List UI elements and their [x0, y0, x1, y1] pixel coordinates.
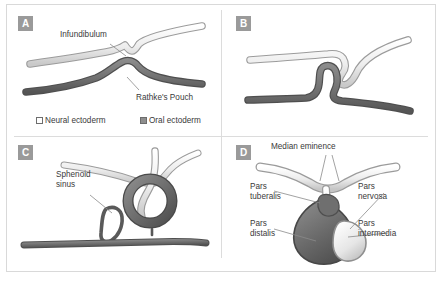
panel-b: B: [222, 4, 436, 137]
label-pars-nervosa-line2: nervosa: [358, 192, 387, 202]
panel-b-illustration: [222, 4, 436, 137]
panel-c-illustration: [6, 137, 222, 272]
panel-c: C: [6, 137, 222, 272]
neural-ectoderm-swatch-icon: [36, 117, 43, 124]
label-rathkes-pouch: Rathke's Pouch: [136, 93, 193, 103]
legend-label-neural-ectoderm: Neural ectoderm: [45, 116, 106, 125]
label-pars-intermedia-line1: Pars: [358, 219, 375, 229]
legend-item-oral-ectoderm: Oral ectoderm: [140, 116, 201, 125]
panel-d-illustration: [222, 137, 436, 272]
label-pars-tuberalis-line1: Pars: [250, 182, 267, 192]
label-pars-distalis-line1: Pars: [250, 219, 267, 229]
label-sphenoid-sinus-line2: sinus: [56, 180, 75, 190]
legend-label-oral-ectoderm: Oral ectoderm: [149, 116, 201, 125]
figure-container: A Inf: [0, 0, 442, 283]
label-pars-nervosa-line1: Pars: [358, 182, 375, 192]
label-sphenoid-sinus-line1: Sphenoid: [56, 170, 91, 180]
panel-a: A Inf: [6, 4, 222, 137]
label-pars-distalis-line2: distalis: [250, 229, 275, 239]
legend: Neural ectoderm Oral ectoderm: [36, 116, 222, 125]
label-median-eminence: Median eminence: [271, 142, 336, 152]
label-pars-tuberalis-line2: tuberalis: [250, 192, 281, 202]
label-infundibulum: Infundibulum: [60, 30, 107, 40]
label-pars-intermedia-line2: intermedia: [358, 229, 396, 239]
oral-ectoderm-swatch-icon: [140, 117, 147, 124]
legend-item-neural-ectoderm: Neural ectoderm: [36, 116, 140, 125]
panel-d: D: [222, 137, 436, 272]
